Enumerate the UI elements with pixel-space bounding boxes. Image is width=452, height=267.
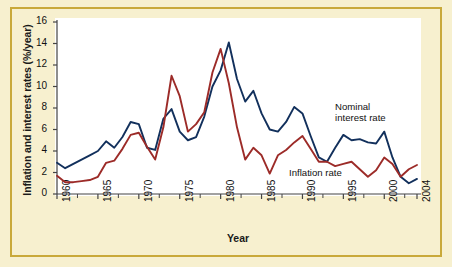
chart-plot <box>0 0 452 267</box>
annotation-inflation-rate: Inflation rate <box>289 167 342 178</box>
annotation-nominal-interest-rate: Nominal interest rate <box>335 101 386 123</box>
chart-figure: Inflation and interest rates (%/year) Ye… <box>0 0 452 267</box>
